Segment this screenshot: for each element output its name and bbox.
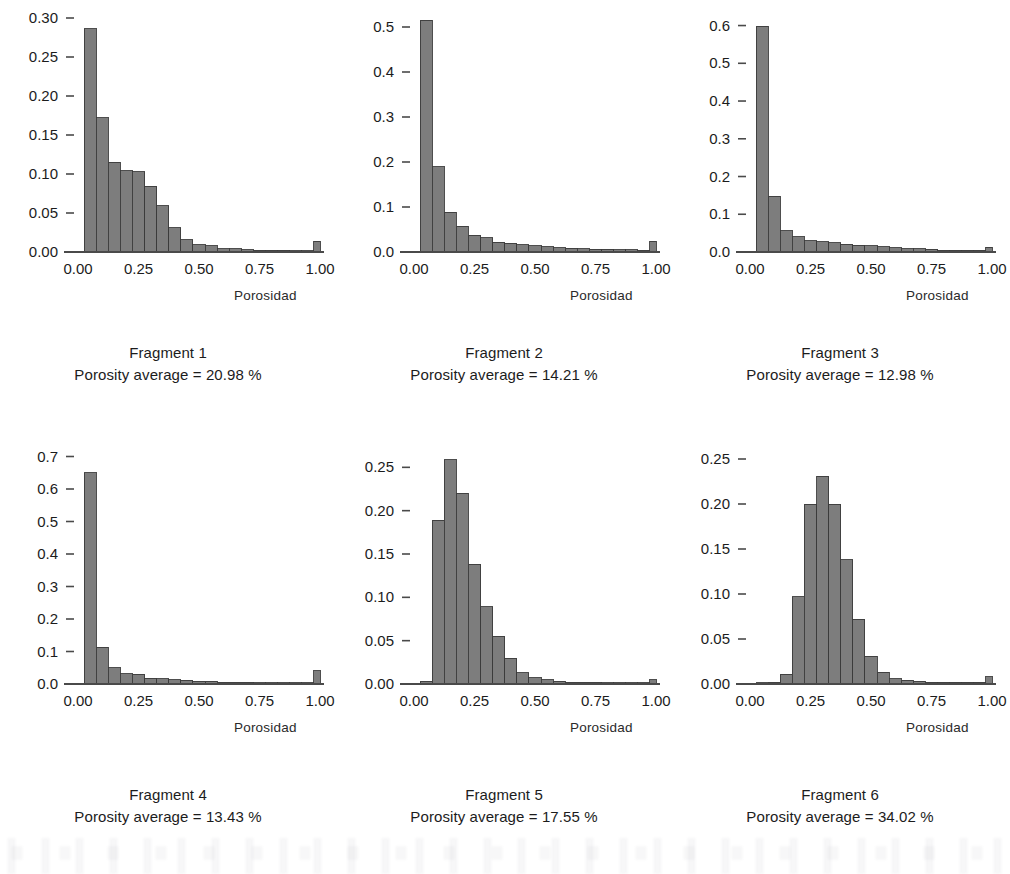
y-tick-label: 0.20	[701, 495, 730, 512]
panel-title-4: Fragment 4	[0, 784, 336, 806]
y-tick-label: 0.5	[37, 513, 58, 530]
histogram-bar	[132, 674, 144, 684]
y-tick-label: 0.25	[29, 48, 58, 65]
x-tick-label: 1.00	[977, 260, 1006, 277]
x-axis-label-6: Porosidad	[906, 720, 969, 735]
histogram-bar	[780, 674, 792, 684]
x-axis-label-1: Porosidad	[234, 288, 297, 303]
histogram-bar	[865, 656, 877, 684]
histogram-bar	[444, 212, 456, 252]
y-tick-label: 0.0	[37, 675, 58, 692]
x-axis-5: 0.000.250.500.751.00	[399, 692, 670, 709]
y-tick-label: 0.3	[373, 108, 394, 125]
y-tick-label: 0.15	[701, 540, 730, 557]
histogram-bar	[529, 246, 541, 252]
x-tick-label: 1.00	[641, 260, 670, 277]
y-tick-label: 0.3	[709, 130, 730, 147]
histogram-bar	[517, 245, 529, 252]
histogram-bar	[132, 172, 144, 252]
y-tick-label: 0.10	[701, 585, 730, 602]
y-tick-label: 0.2	[37, 610, 58, 627]
bars-group-6	[756, 476, 992, 684]
x-axis-label-5: Porosidad	[570, 720, 633, 735]
histogram-bar	[420, 20, 432, 252]
histogram-panel-6: 0.000.050.100.150.200.250.000.250.500.75…	[672, 432, 1008, 874]
histogram-panel-2: 0.00.10.20.30.40.50.000.250.500.751.00Po…	[336, 0, 672, 432]
x-axis-label-2: Porosidad	[570, 288, 633, 303]
y-tick-label: 0.2	[709, 168, 730, 185]
panel-title-5: Fragment 5	[336, 784, 672, 806]
y-tick-label: 0.00	[701, 675, 730, 692]
y-tick-label: 0.05	[365, 632, 394, 649]
panel-caption-4: Fragment 4Porosity average = 13.43 %	[0, 784, 336, 828]
histogram-panel-3: 0.00.10.20.30.40.50.60.000.250.500.751.0…	[672, 0, 1008, 432]
histogram-bar	[456, 226, 468, 252]
histogram-bar	[481, 607, 493, 684]
panel-porosity-average-6: Porosity average = 34.02 %	[672, 806, 1008, 828]
bars-group-2	[420, 20, 656, 252]
y-tick-label: 0.6	[37, 480, 58, 497]
histogram-bar	[792, 237, 804, 252]
y-tick-label: 0.05	[701, 630, 730, 647]
y-tick-label: 0.20	[365, 502, 394, 519]
panel-title-1: Fragment 1	[0, 342, 336, 364]
plot-area-1: 0.000.050.100.150.200.250.300.000.250.50…	[0, 0, 336, 300]
x-tick-label: 0.25	[796, 692, 825, 709]
x-tick-label: 0.50	[184, 692, 213, 709]
x-tick-label: 1.00	[305, 692, 334, 709]
histogram-bar	[780, 231, 792, 252]
panel-caption-6: Fragment 6Porosity average = 34.02 %	[672, 784, 1008, 828]
histogram-bar	[432, 167, 444, 253]
histogram-svg-3: 0.00.10.20.30.40.50.60.000.250.500.751.0…	[672, 0, 1008, 300]
x-tick-label: 1.00	[305, 260, 334, 277]
bars-group-5	[420, 460, 656, 684]
x-tick-label: 0.00	[735, 260, 764, 277]
y-tick-label: 0.25	[365, 458, 394, 475]
bars-group-1	[84, 29, 320, 252]
histogram-bar	[84, 473, 96, 684]
y-tick-label: 0.3	[37, 578, 58, 595]
plot-area-5: 0.000.050.100.150.200.250.000.250.500.75…	[336, 432, 672, 732]
figure-histogram-grid: 0.000.050.100.150.200.250.300.000.250.50…	[0, 0, 1010, 874]
panel-porosity-average-5: Porosity average = 17.55 %	[336, 806, 672, 828]
histogram-svg-6: 0.000.050.100.150.200.250.000.250.500.75…	[672, 432, 1008, 732]
y-tick-label: 0.1	[709, 205, 730, 222]
x-axis-label-3: Porosidad	[906, 288, 969, 303]
histogram-bar	[169, 228, 181, 252]
panel-title-2: Fragment 2	[336, 342, 672, 364]
x-tick-label: 0.75	[917, 692, 946, 709]
histogram-bar	[193, 245, 205, 252]
y-tick-label: 0.15	[29, 126, 58, 143]
y-tick-label: 0.4	[37, 545, 58, 562]
histogram-bar	[468, 564, 480, 684]
histogram-bar	[505, 243, 517, 252]
histogram-panel-5: 0.000.050.100.150.200.250.000.250.500.75…	[336, 432, 672, 874]
histogram-bar	[145, 186, 157, 252]
histogram-svg-2: 0.00.10.20.30.40.50.000.250.500.751.00	[336, 0, 672, 300]
plot-area-3: 0.00.10.20.30.40.50.60.000.250.500.751.0…	[672, 0, 1008, 300]
panel-caption-1: Fragment 1Porosity average = 20.98 %	[0, 342, 336, 386]
histogram-bar	[505, 658, 517, 684]
y-tick-label: 0.5	[709, 54, 730, 71]
y-tick-label: 0.1	[37, 643, 58, 660]
histogram-svg-4: 0.00.10.20.30.40.50.60.70.000.250.500.75…	[0, 432, 336, 732]
plot-area-4: 0.00.10.20.30.40.50.60.70.000.250.500.75…	[0, 432, 336, 732]
x-tick-label: 0.00	[735, 692, 764, 709]
x-tick-label: 0.25	[460, 692, 489, 709]
x-axis-2: 0.000.250.500.751.00	[399, 260, 670, 277]
histogram-bar	[120, 171, 132, 252]
y-axis-5: 0.000.050.100.150.200.25	[365, 458, 410, 692]
histogram-bar	[444, 460, 456, 684]
histogram-svg-5: 0.000.050.100.150.200.250.000.250.500.75…	[336, 432, 672, 732]
histogram-panel-1: 0.000.050.100.150.200.250.300.000.250.50…	[0, 0, 336, 432]
histogram-bar	[768, 196, 780, 252]
panel-title-3: Fragment 3	[672, 342, 1008, 364]
histogram-bar	[529, 678, 541, 684]
y-axis-2: 0.00.10.20.30.40.5	[373, 18, 410, 260]
histogram-bar	[96, 647, 108, 684]
y-tick-label: 0.5	[373, 18, 394, 35]
x-axis-6: 0.000.250.500.751.00	[735, 692, 1006, 709]
x-axis-4: 0.000.250.500.751.00	[63, 692, 334, 709]
histogram-bar	[853, 619, 865, 684]
y-tick-label: 0.20	[29, 87, 58, 104]
